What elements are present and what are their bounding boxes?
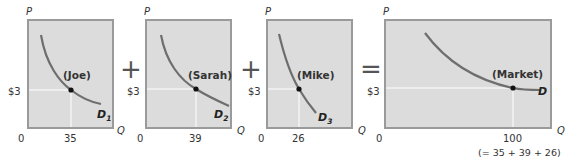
plus-operator: +: [120, 54, 142, 84]
equilibrium-point: [68, 87, 73, 92]
origin-label: 0: [137, 133, 143, 144]
equilibrium-point: [510, 85, 515, 90]
price-tick: $3: [127, 86, 140, 97]
quantity-tick: 39: [189, 133, 202, 144]
panel-name: (Joe): [63, 69, 91, 81]
quantity-tick: 26: [292, 133, 305, 144]
y-axis-label: P: [144, 6, 151, 17]
y-axis-label: P: [265, 6, 272, 17]
panel-sarah: (Sarah) D2 P Q 0 $3 39: [127, 6, 245, 144]
panel-name: (Sarah): [188, 69, 232, 81]
equals-operator: =: [360, 54, 382, 84]
y-axis-label: P: [26, 6, 33, 17]
price-tick: $3: [248, 86, 261, 97]
quantity-tick: 35: [64, 133, 77, 144]
panel-joe: (Joe) D1 P Q 0 $3 35: [8, 6, 125, 144]
panel-name: (Mike): [297, 69, 334, 81]
panel-market: (Market) D P Q 0 $3 100 (= 35 + 39 + 26): [367, 6, 565, 158]
y-axis-label: P: [383, 6, 390, 17]
quantity-tick: 100: [503, 133, 522, 144]
equilibrium-point: [296, 86, 301, 91]
price-tick: $3: [367, 86, 380, 97]
x-axis-label: Q: [557, 125, 565, 136]
x-axis-label: Q: [237, 125, 245, 136]
curve-label: D: [538, 85, 547, 98]
price-tick: $3: [8, 86, 21, 97]
x-axis-label: Q: [358, 125, 366, 136]
market-demand-diagram: (Joe) D1 P Q 0 $3 35 + (Sarah) D2 P Q 0 …: [0, 0, 573, 166]
equilibrium-point: [193, 86, 198, 91]
panel-mike: (Mike) D3 P Q 0 $3 26: [248, 6, 366, 144]
plus-operator: +: [240, 54, 262, 84]
origin-label: 0: [18, 133, 24, 144]
origin-label: 0: [258, 133, 264, 144]
panel-name: (Market): [492, 68, 543, 80]
x-axis-label: Q: [117, 125, 125, 136]
origin-label: 0: [376, 133, 382, 144]
sum-note: (= 35 + 39 + 26): [478, 147, 561, 158]
